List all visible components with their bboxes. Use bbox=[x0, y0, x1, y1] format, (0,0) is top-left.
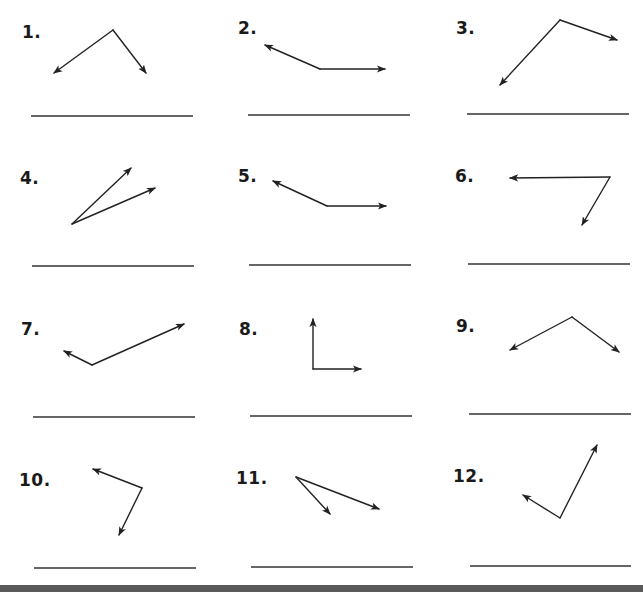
problem-number-7: 7. bbox=[21, 321, 40, 338]
angle-worksheet: 1.2.3.4.5.6.7.8.9.10.11.12. bbox=[0, 0, 643, 592]
problem-number-1: 1. bbox=[22, 24, 41, 41]
problem-number-6: 6. bbox=[455, 168, 474, 185]
angle-figure-9 bbox=[510, 317, 619, 352]
problem-number-2: 2. bbox=[238, 20, 257, 37]
ray-arrow-icon bbox=[510, 317, 572, 350]
ray-arrow-icon bbox=[510, 177, 610, 178]
ray-arrow-icon bbox=[265, 45, 320, 69]
angle-figure-12 bbox=[523, 445, 597, 518]
ray-arrow-icon bbox=[582, 177, 610, 225]
ray-arrow-icon bbox=[523, 495, 560, 518]
angle-figure-1 bbox=[54, 30, 146, 73]
problem-number-11: 11. bbox=[236, 470, 268, 487]
angle-figure-4 bbox=[72, 168, 155, 224]
ray-arrow-icon bbox=[296, 477, 330, 514]
ray-arrow-icon bbox=[72, 168, 131, 224]
ray-arrow-icon bbox=[72, 188, 155, 224]
ray-arrow-icon bbox=[296, 477, 379, 509]
angle-figure-11 bbox=[296, 477, 379, 514]
ray-arrow-icon bbox=[92, 324, 184, 365]
page-bottom-bar bbox=[0, 585, 643, 592]
problem-number-4: 4. bbox=[20, 170, 39, 187]
problem-number-9: 9. bbox=[456, 318, 475, 335]
ray-arrow-icon bbox=[64, 351, 92, 365]
ray-arrow-icon bbox=[572, 317, 619, 352]
problem-number-8: 8. bbox=[239, 321, 258, 338]
ray-arrow-icon bbox=[119, 488, 142, 535]
ray-arrow-icon bbox=[560, 20, 617, 40]
ray-arrow-icon bbox=[500, 20, 560, 85]
angle-figure-7 bbox=[64, 324, 184, 365]
problem-number-5: 5. bbox=[238, 168, 257, 185]
angle-figure-5 bbox=[273, 181, 386, 206]
problem-number-3: 3. bbox=[456, 20, 475, 37]
ray-arrow-icon bbox=[560, 445, 597, 518]
ray-arrow-icon bbox=[93, 469, 142, 488]
angle-figure-3 bbox=[500, 20, 617, 85]
problem-number-12: 12. bbox=[453, 468, 485, 485]
angle-figure-10 bbox=[93, 469, 142, 535]
angle-figures bbox=[0, 0, 643, 592]
angle-figure-2 bbox=[265, 45, 385, 69]
angle-figure-6 bbox=[510, 177, 610, 225]
problem-number-10: 10. bbox=[19, 472, 51, 489]
ray-arrow-icon bbox=[273, 181, 327, 206]
ray-arrow-icon bbox=[113, 30, 146, 73]
ray-arrow-icon bbox=[54, 30, 113, 73]
angle-figure-8 bbox=[313, 319, 361, 369]
